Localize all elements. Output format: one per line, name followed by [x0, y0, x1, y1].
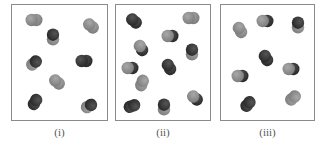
- diatomic-molecule: [131, 38, 150, 59]
- diatomic-molecule: [238, 94, 258, 115]
- light-atom: [232, 70, 244, 82]
- dark-atom: [186, 44, 198, 56]
- light-atom: [283, 63, 295, 75]
- molecule-panel-3: [220, 4, 315, 121]
- panel-label: (iii): [248, 126, 288, 138]
- panel-label: (i): [40, 126, 80, 138]
- dark-atom: [158, 99, 170, 111]
- diatomic-molecule: [124, 11, 145, 31]
- diatomic-molecule: [256, 48, 275, 69]
- diatomic-molecule: [47, 29, 59, 46]
- panel-label: (ii): [143, 126, 183, 138]
- diatomic-molecule: [185, 88, 206, 108]
- diatomic-molecule: [186, 44, 198, 61]
- light-atom: [162, 30, 174, 42]
- diatomic-molecule: [24, 53, 45, 73]
- light-atom: [122, 62, 134, 74]
- diatomic-molecule: [162, 30, 179, 42]
- light-atom: [183, 12, 195, 24]
- diatomic-molecule: [26, 14, 43, 26]
- diatomic-molecule: [122, 97, 142, 114]
- diatomic-molecule: [292, 17, 304, 34]
- diatomic-molecule: [183, 12, 200, 24]
- diatomic-molecule: [133, 73, 150, 93]
- diatomic-molecule: [283, 88, 304, 108]
- dark-atom: [76, 55, 88, 67]
- diatomic-molecule: [79, 96, 100, 115]
- diatomic-molecule: [230, 20, 249, 41]
- diatomic-molecule: [47, 72, 68, 92]
- diatomic-molecule: [81, 16, 102, 36]
- diatomic-molecule: [25, 92, 44, 113]
- diatomic-molecule: [158, 99, 170, 116]
- diatomic-molecule: [232, 70, 249, 82]
- dark-atom: [292, 17, 304, 29]
- diatomic-molecule: [257, 15, 274, 27]
- diatomic-molecule: [159, 57, 178, 78]
- molecule-panel-2: [115, 4, 211, 121]
- diatomic-molecule: [283, 63, 300, 75]
- molecule-panel-1: [11, 4, 108, 121]
- diatomic-molecule: [122, 62, 139, 74]
- diatomic-molecule: [76, 55, 93, 67]
- light-atom: [26, 14, 38, 26]
- dark-atom: [47, 29, 59, 41]
- light-atom: [257, 15, 269, 27]
